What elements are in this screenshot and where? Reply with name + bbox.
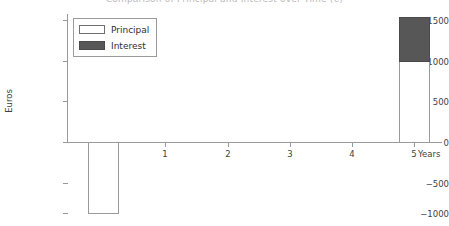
legend-swatch-interest-icon [79, 41, 105, 50]
x-axis-title: Years [418, 149, 440, 159]
x-axis-line [67, 142, 442, 143]
y-tick-label-minus-1000: −1000 [413, 209, 449, 219]
y-axis-line [67, 14, 68, 143]
x-tick-label-3: 3 [278, 149, 302, 159]
x-tick-5 [414, 143, 415, 147]
y-tick-minus-500 [63, 183, 68, 184]
x-tick-4 [352, 143, 353, 147]
bar-year5-interest [399, 17, 430, 62]
x-tick-1 [165, 143, 166, 147]
bar-year0-principal [88, 142, 119, 214]
y-axis-title: Euros [4, 89, 14, 113]
x-tick-label-4: 4 [340, 149, 364, 159]
legend-label-interest: Interest [111, 41, 146, 51]
legend-label-principal: Principal [111, 25, 149, 35]
legend-item-interest: Interest [79, 39, 149, 52]
y-tick-500 [63, 101, 68, 102]
chart-title: Comparison of Principal and Interest ove… [0, 0, 449, 4]
x-tick-label-2: 2 [216, 149, 240, 159]
y-tick-1000 [63, 61, 68, 62]
x-tick-3 [290, 143, 291, 147]
legend-item-principal: Principal [79, 23, 149, 36]
y-tick-minus-1000 [63, 213, 68, 214]
x-tick-label-1: 1 [153, 149, 177, 159]
bar-year5-principal [399, 61, 430, 143]
x-tick-2 [228, 143, 229, 147]
y-tick-1500 [63, 20, 68, 21]
y-tick-label-minus-500: −500 [413, 179, 449, 189]
chart-legend: Principal Interest [73, 18, 157, 57]
legend-swatch-principal-icon [79, 25, 105, 34]
bar-chart: Comparison of Principal and Interest ove… [0, 0, 449, 226]
